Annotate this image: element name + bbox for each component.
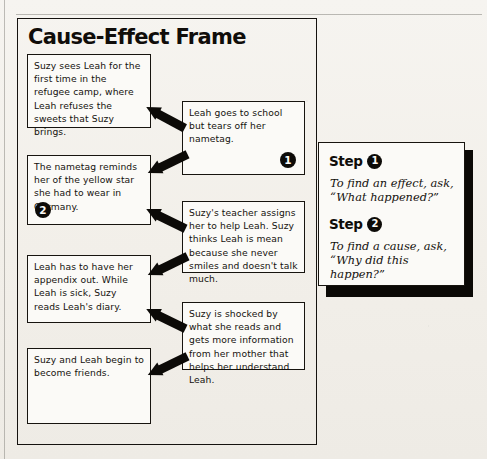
step-2-label: Step: [329, 216, 362, 232]
effect-box-2-text: Suzy's teacher assigns her to help Leah.…: [189, 206, 299, 285]
step-1-label: Step: [329, 153, 362, 169]
effect-box-3-text: Suzy is shocked by what she reads and ge…: [189, 307, 299, 386]
cause-box-4-text: Suzy and Leah begin to become friends.: [34, 353, 145, 379]
cause-box-3-text: Leah has to have her appendix out. While…: [34, 260, 145, 313]
cause-box-3[interactable]: Leah has to have her appendix out. While…: [27, 255, 151, 323]
effect-box-1-badge: 1: [280, 152, 296, 168]
cause-box-4[interactable]: Suzy and Leah begin to become friends.: [27, 348, 151, 424]
step-2-badge: 2: [367, 217, 382, 232]
effect-box-2[interactable]: Suzy's teacher assigns her to help Leah.…: [182, 201, 305, 273]
cause-box-1-text: Suzy sees Leah for the first time in the…: [34, 59, 145, 138]
step-2-body: To find a cause, ask, “Why did this happ…: [330, 239, 462, 281]
cause-box-2-badge: 2: [35, 202, 51, 218]
effect-box-1[interactable]: Leah goes to school but tears off her na…: [182, 101, 305, 175]
cause-box-2[interactable]: The nametag reminds her of the yellow st…: [27, 155, 151, 225]
scanned-page: Cause-Effect Frame Suzy sees Leah for th…: [0, 0, 487, 459]
cause-box-2-text: The nametag reminds her of the yellow st…: [34, 160, 145, 213]
page-gutter-line: [4, 0, 5, 459]
step-1-heading: Step 1: [329, 153, 382, 169]
step-2-heading: Step 2: [329, 216, 382, 232]
cause-box-1[interactable]: Suzy sees Leah for the first time in the…: [27, 54, 151, 128]
effect-box-1-text: Leah goes to school but tears off her na…: [189, 106, 299, 146]
page-top-rule: [16, 14, 482, 15]
page-title: Cause-Effect Frame: [28, 25, 246, 49]
effect-box-3[interactable]: Suzy is shocked by what she reads and ge…: [182, 302, 305, 370]
step-1-badge: 1: [367, 154, 382, 169]
side-panel: Step 1 To find an effect, ask, “What hap…: [318, 142, 465, 286]
step-1-body: To find an effect, ask, “What happened?”: [330, 176, 460, 204]
